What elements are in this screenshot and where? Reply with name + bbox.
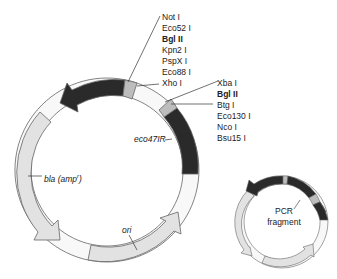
site-xho-i: Xho I [162,78,182,89]
large-plasmid [15,78,199,262]
site-not-i: Not I [162,12,180,23]
pcr-line2: fragment [266,217,302,228]
eco47ir-segment [164,108,198,174]
site-eco130-i: Eco130 I [217,111,251,122]
eco47ir-label: eco47IR [134,134,166,145]
site-bsu15-i: Bsu15 I [217,133,246,144]
site-pspx-i: PspX I [162,56,187,67]
site-nco-i: Nco I [217,122,237,133]
site-bgl-ii-2: Bgl II [217,89,238,100]
pcr-line1: PCR [266,206,302,217]
top-dark-arrow [60,79,125,112]
bla-text: bla (amp [44,174,77,184]
site-eco52-i: Eco52 I [162,23,191,34]
bla-label: bla (ampr) [44,171,82,185]
site-xba-i: Xba I [217,78,237,89]
bla-close: ) [79,174,82,184]
pcr-fragment-label: PCR fragment [266,206,302,228]
site-eco88-i: Eco88 I [162,67,191,78]
site-btg-i: Btg I [217,100,234,111]
ori-arrow [88,212,181,262]
site-kpn2-i: Kpn2 I [162,45,187,56]
site-bgl-ii: Bgl II [162,34,183,45]
ori-label: ori [122,225,131,236]
